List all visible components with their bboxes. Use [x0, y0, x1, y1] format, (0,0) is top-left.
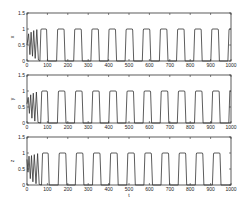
y-tick-label: 1.5 — [18, 72, 25, 78]
x-tick-label: 100 — [43, 124, 52, 130]
series-line-z — [27, 153, 231, 185]
y-axis-label: z — [9, 159, 15, 162]
x-tick-label: 300 — [84, 62, 93, 68]
x-tick-label: 1000 — [225, 124, 236, 130]
x-tick-label: 200 — [64, 124, 73, 130]
axes-frame — [27, 137, 231, 185]
x-tick-label: 0 — [26, 186, 29, 192]
x-tick-label: 100 — [43, 62, 52, 68]
x-tick-label: 300 — [84, 186, 93, 192]
subplots-figure: 0100200300400500600700800900100000.511.5… — [0, 0, 247, 200]
x-tick-label: 800 — [186, 62, 195, 68]
y-tick-label: 0.5 — [18, 42, 25, 48]
figure: 0100200300400500600700800900100000.511.5… — [0, 0, 247, 200]
y-axis-label: x — [9, 35, 15, 38]
y-tick-label: 1.5 — [18, 10, 25, 16]
x-tick-label: 400 — [104, 124, 113, 130]
series-line-y — [27, 91, 231, 123]
x-tick-label: 200 — [64, 62, 73, 68]
y-tick-label: 0 — [22, 120, 25, 126]
x-tick-label: 700 — [166, 124, 175, 130]
subplot-x: 0100200300400500600700800900100000.511.5… — [9, 10, 237, 68]
x-tick-label: 0 — [26, 124, 29, 130]
y-tick-label: 0 — [22, 58, 25, 64]
x-tick-label: 200 — [64, 186, 73, 192]
x-tick-label: 500 — [125, 62, 134, 68]
x-tick-label: 0 — [26, 62, 29, 68]
x-tick-label: 900 — [206, 62, 215, 68]
y-tick-label: 0.5 — [18, 166, 25, 172]
y-tick-label: 1 — [22, 26, 25, 32]
x-tick-label: 300 — [84, 124, 93, 130]
y-tick-label: 0.5 — [18, 104, 25, 110]
x-tick-label: 500 — [125, 124, 134, 130]
y-tick-label: 0 — [22, 182, 25, 188]
x-tick-label: 600 — [145, 124, 154, 130]
x-tick-label: 800 — [186, 186, 195, 192]
x-tick-label: 600 — [145, 62, 154, 68]
x-tick-label: 400 — [104, 62, 113, 68]
x-tick-label: 900 — [206, 186, 215, 192]
x-tick-label: 900 — [206, 124, 215, 130]
subplot-y: 0100200300400500600700800900100000.511.5… — [9, 72, 237, 130]
subplot-z: 0100200300400500600700800900100000.511.5… — [9, 134, 237, 198]
y-tick-label: 1 — [22, 150, 25, 156]
x-tick-label: 1000 — [225, 186, 236, 192]
x-tick-label: 400 — [104, 186, 113, 192]
x-tick-label: 700 — [166, 186, 175, 192]
y-tick-label: 1 — [22, 88, 25, 94]
x-axis-label: t — [128, 192, 130, 198]
y-axis-label: y — [9, 97, 15, 100]
x-tick-label: 700 — [166, 62, 175, 68]
series-line-x — [27, 29, 231, 61]
x-tick-label: 800 — [186, 124, 195, 130]
x-tick-label: 1000 — [225, 62, 236, 68]
y-tick-label: 1.5 — [18, 134, 25, 140]
x-tick-label: 100 — [43, 186, 52, 192]
x-tick-label: 600 — [145, 186, 154, 192]
